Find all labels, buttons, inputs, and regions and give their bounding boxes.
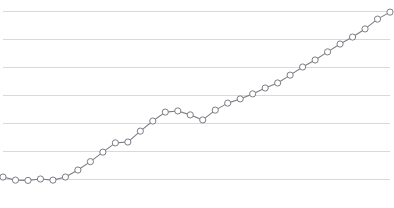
data-point-marker[interactable]: [37, 176, 43, 182]
data-point-marker[interactable]: [324, 49, 330, 55]
data-point-marker[interactable]: [362, 26, 368, 32]
data-point-marker[interactable]: [12, 177, 18, 183]
data-point-marker[interactable]: [162, 109, 168, 115]
data-point-marker[interactable]: [250, 91, 256, 97]
data-point-marker[interactable]: [312, 57, 318, 63]
data-point-marker[interactable]: [337, 41, 343, 47]
data-point-marker[interactable]: [0, 174, 6, 180]
data-point-marker[interactable]: [349, 34, 355, 40]
data-point-marker[interactable]: [75, 167, 81, 173]
data-point-marker[interactable]: [25, 177, 31, 183]
data-point-marker[interactable]: [100, 149, 106, 155]
data-point-marker[interactable]: [50, 177, 56, 183]
data-point-marker[interactable]: [262, 85, 268, 91]
data-point-marker[interactable]: [200, 117, 206, 123]
data-point-marker[interactable]: [387, 9, 393, 15]
data-point-marker[interactable]: [275, 80, 281, 86]
data-point-marker[interactable]: [87, 159, 93, 165]
data-point-marker[interactable]: [112, 140, 118, 146]
data-point-marker[interactable]: [125, 139, 131, 145]
chart-canvas: [0, 0, 394, 208]
data-point-marker[interactable]: [175, 108, 181, 114]
data-point-marker[interactable]: [62, 174, 68, 180]
data-point-marker[interactable]: [212, 107, 218, 113]
data-point-marker[interactable]: [300, 64, 306, 70]
line-chart-figure: [0, 0, 394, 208]
data-point-marker[interactable]: [187, 112, 193, 118]
data-point-marker[interactable]: [150, 118, 156, 124]
data-point-marker[interactable]: [225, 100, 231, 106]
data-point-marker[interactable]: [287, 72, 293, 78]
data-point-marker[interactable]: [137, 128, 143, 134]
data-point-marker[interactable]: [374, 16, 380, 22]
chart-background: [0, 0, 394, 208]
data-point-marker[interactable]: [237, 96, 243, 102]
